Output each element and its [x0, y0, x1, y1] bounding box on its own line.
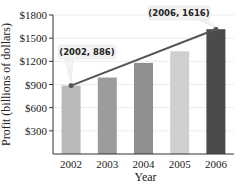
y-tick-label: $1500: [20, 32, 48, 44]
x-tick-label: 2005: [169, 158, 192, 170]
x-tick-label: 2003: [96, 158, 119, 170]
y-tick-label: $1800: [20, 9, 48, 21]
annotation-callout: (2006, 1616): [148, 6, 216, 27]
profit-bar-chart: $300$600$900$1200$1500$1800 200220032004…: [0, 0, 244, 185]
trend-point-end: [213, 27, 218, 32]
x-tick-labels: 20022003200420052006: [60, 158, 227, 170]
callout-pointer: [65, 59, 73, 84]
bar-2004: [134, 63, 153, 154]
annotation-label: (2006, 1616): [148, 8, 209, 18]
x-tick-label: 2004: [133, 158, 156, 170]
x-axis-title: Year: [134, 170, 156, 184]
y-ticks: $300$600$900$1200$1500$1800: [20, 9, 54, 137]
y-tick-label: $300: [25, 125, 48, 137]
bar-2002: [62, 86, 81, 154]
y-tick-label: $1200: [20, 55, 48, 67]
y-tick-label: $900: [25, 79, 48, 91]
annotation-label: (2002, 886): [59, 47, 114, 57]
y-tick-label: $600: [25, 102, 48, 114]
bar-2003: [98, 78, 117, 154]
bar-2005: [170, 51, 189, 154]
bar-2006: [206, 29, 225, 154]
x-tick-label: 2006: [205, 158, 228, 170]
y-axis-title: Profit (billions of dollars): [0, 23, 13, 146]
trend-point-start: [69, 83, 74, 88]
x-tick-label: 2002: [60, 158, 82, 170]
callout-pointer: [198, 20, 216, 27]
